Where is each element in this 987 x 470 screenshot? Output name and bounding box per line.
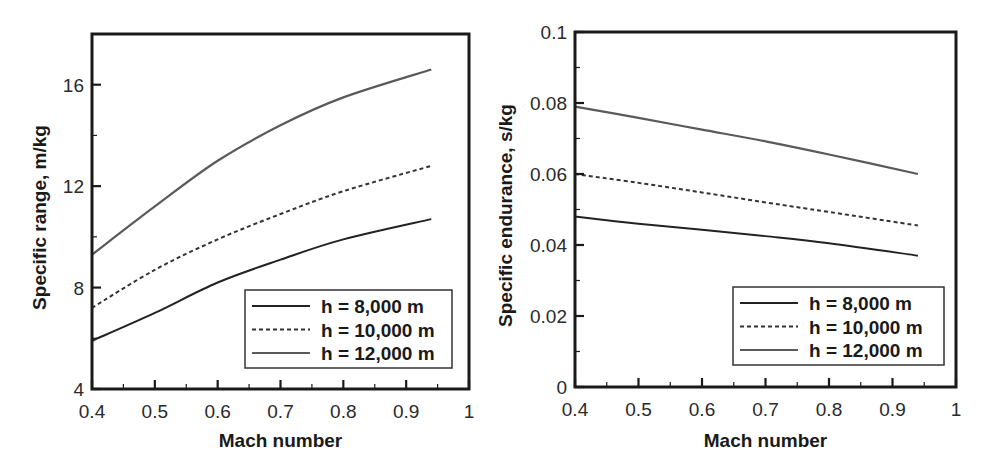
y-tick-label: 0.06 xyxy=(530,164,567,185)
x-tick-label: 0.5 xyxy=(142,401,168,422)
specific-endurance-plot: 0.40.50.60.70.80.9100.020.040.060.080.1M… xyxy=(490,0,987,470)
specific-endurance-chart: 0.40.50.60.70.80.9100.020.040.060.080.1M… xyxy=(490,0,987,470)
legend: h = 8,000 mh = 10,000 mh = 12,000 m xyxy=(245,290,452,368)
legend-label: h = 10,000 m xyxy=(321,320,435,341)
legend-label: h = 12,000 m xyxy=(809,340,923,361)
legend-label: h = 12,000 m xyxy=(321,343,435,364)
x-tick-label: 0.9 xyxy=(879,399,905,420)
x-tick-label: 0.7 xyxy=(267,401,293,422)
legend-label: h = 8,000 m xyxy=(809,293,912,314)
y-tick-label: 0.04 xyxy=(530,235,567,256)
series-line-12000m xyxy=(575,107,918,174)
x-tick-label: 1 xyxy=(464,401,475,422)
x-axis-title: Mach number xyxy=(704,430,828,451)
legend: h = 8,000 mh = 10,000 mh = 12,000 m xyxy=(733,287,944,365)
x-tick-label: 0.4 xyxy=(79,401,106,422)
x-tick-label: 0.6 xyxy=(204,401,230,422)
y-axis-title: Specific range, m/kg xyxy=(29,125,50,310)
x-axis-title: Mach number xyxy=(219,430,343,451)
x-tick-label: 0.5 xyxy=(625,399,651,420)
legend-label: h = 10,000 m xyxy=(809,317,923,338)
y-tick-label: 0.08 xyxy=(530,93,567,114)
specific-range-chart: 0.40.50.60.70.80.91481216Mach numberSpec… xyxy=(0,0,490,470)
series-line-10000m xyxy=(92,166,431,308)
series-line-12000m xyxy=(92,70,431,255)
x-tick-label: 0.8 xyxy=(816,399,842,420)
y-tick-label: 12 xyxy=(63,176,84,197)
y-tick-label: 8 xyxy=(73,278,84,299)
y-tick-label: 0.1 xyxy=(541,22,567,43)
series-line-8000m xyxy=(575,217,918,256)
specific-range-plot: 0.40.50.60.70.80.91481216Mach numberSpec… xyxy=(0,0,490,470)
y-tick-label: 0 xyxy=(556,377,567,398)
legend-label: h = 8,000 m xyxy=(321,296,424,317)
x-tick-label: 0.4 xyxy=(562,399,589,420)
x-tick-label: 1 xyxy=(951,399,962,420)
x-tick-label: 0.8 xyxy=(330,401,356,422)
x-tick-label: 0.7 xyxy=(752,399,778,420)
series-line-10000m xyxy=(575,174,918,225)
y-axis-title: Specific endurance, s/kg xyxy=(495,104,516,327)
y-tick-label: 16 xyxy=(63,75,84,96)
x-tick-label: 0.6 xyxy=(689,399,715,420)
y-tick-label: 0.02 xyxy=(530,306,567,327)
y-tick-label: 4 xyxy=(73,379,84,400)
x-tick-label: 0.9 xyxy=(393,401,419,422)
